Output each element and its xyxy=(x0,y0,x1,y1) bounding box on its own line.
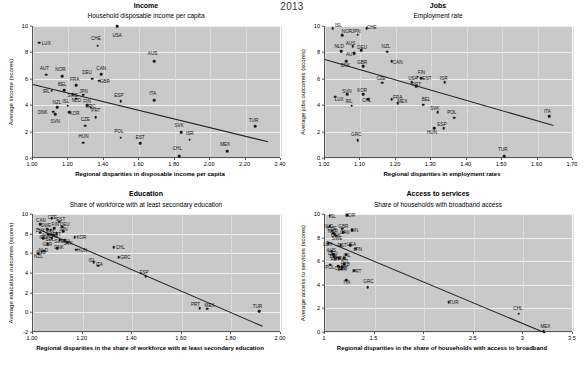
data-point xyxy=(56,106,59,109)
data-point-label: SVN xyxy=(342,88,351,93)
gridline-horizontal xyxy=(33,26,280,27)
gridline-horizontal xyxy=(325,214,572,215)
data-point xyxy=(422,103,425,106)
x-axis-tick-mark xyxy=(466,158,467,160)
x-axis-tick-label: 1.5 xyxy=(370,335,378,341)
gridline-horizontal xyxy=(33,312,280,313)
data-point-label: GBR xyxy=(42,242,52,247)
gridline-horizontal xyxy=(33,293,280,294)
x-axis-tick-label: 1.80 xyxy=(225,335,236,341)
data-point xyxy=(178,155,181,158)
chart-panel-income: IncomeHousehold disposable income per ca… xyxy=(0,0,292,188)
y-axis-tick-mark xyxy=(30,26,32,27)
data-point xyxy=(96,45,99,48)
data-point xyxy=(542,330,545,333)
data-point-label: ISL xyxy=(89,257,96,262)
data-point xyxy=(386,50,389,53)
x-axis-tick-label: 2 xyxy=(422,335,425,341)
data-point xyxy=(443,81,446,84)
y-axis-label: Average education outcomes (scores) xyxy=(8,214,14,332)
gridline-vertical xyxy=(396,26,397,157)
x-axis-tick-mark xyxy=(324,158,325,160)
data-point-label: TUR xyxy=(249,117,258,122)
gridline-vertical xyxy=(573,214,574,331)
data-point-label: PRT xyxy=(91,107,100,112)
chart-title: Access to services xyxy=(292,190,584,197)
x-axis-tick-label: 1.10 xyxy=(354,161,365,167)
data-point xyxy=(254,125,257,128)
y-axis-tick-mark xyxy=(322,26,324,27)
data-point-label: POL xyxy=(447,110,456,115)
x-axis-tick-label: 1.00 xyxy=(319,161,330,167)
data-point-label: SVK xyxy=(337,267,346,272)
data-point-label: NLD xyxy=(335,43,344,48)
data-point-label: CZE xyxy=(81,117,90,122)
data-point xyxy=(331,27,334,30)
chart-title: Income xyxy=(0,2,292,9)
data-point-label: CHE xyxy=(48,233,58,238)
data-point-label: CZE xyxy=(376,76,385,81)
data-point xyxy=(153,99,156,102)
y-axis-tick-label: 10 xyxy=(22,23,30,29)
x-axis-tick-label: 2.40 xyxy=(275,161,286,167)
data-point-label: FIN xyxy=(52,222,59,227)
x-axis-label: Regional disparities in the share of wor… xyxy=(14,344,286,352)
gridline-vertical xyxy=(210,26,211,157)
data-point xyxy=(503,155,506,158)
data-point xyxy=(258,310,261,313)
data-point-label: NLD xyxy=(72,97,81,102)
data-point-label: KOR xyxy=(357,88,367,93)
gridline-vertical xyxy=(375,214,376,331)
data-point-label: HUN xyxy=(79,134,89,139)
data-point-label: FIN xyxy=(418,69,425,74)
gridline-horizontal xyxy=(33,332,280,333)
data-point-label: CHL xyxy=(362,97,371,102)
data-point xyxy=(54,113,57,116)
data-point-label: KOR xyxy=(76,234,86,239)
data-point xyxy=(442,127,445,130)
y-axis-tick-mark xyxy=(30,78,32,79)
chart-panel-education: EducationShare of workforce with at leas… xyxy=(0,188,292,376)
x-axis-tick-mark xyxy=(473,332,474,334)
y-axis-tick-mark xyxy=(322,237,324,238)
gridline-vertical xyxy=(474,214,475,331)
data-point-label: BEL xyxy=(58,82,67,87)
data-point-label: SVK xyxy=(430,105,439,110)
y-axis-tick-mark xyxy=(322,78,324,79)
data-point-label: GRC xyxy=(120,255,130,260)
data-point-label: SVN xyxy=(50,119,59,124)
data-point-label: ITA xyxy=(96,261,103,266)
data-point-label: CAN xyxy=(340,230,350,235)
x-axis-tick-mark xyxy=(324,332,325,334)
data-point-label: TUR xyxy=(253,303,262,308)
y-axis-tick-mark xyxy=(30,273,32,274)
y-axis-tick-mark xyxy=(30,233,32,234)
data-point-label: PRT xyxy=(352,268,361,273)
data-point-label: JPN xyxy=(353,246,362,251)
trendline xyxy=(327,241,546,333)
gridline-vertical xyxy=(325,26,326,157)
x-axis-tick-label: 2.5 xyxy=(469,335,477,341)
data-point-label: JPN xyxy=(352,29,361,34)
x-axis-tick-label: 1.40 xyxy=(126,335,137,341)
data-point-label: NOR xyxy=(342,29,352,34)
x-axis-tick-label: 2.20 xyxy=(239,161,250,167)
x-axis-tick-mark xyxy=(103,158,104,160)
chart-title: Jobs xyxy=(292,2,584,9)
data-point-label: ISR xyxy=(440,76,448,81)
data-point xyxy=(367,286,370,289)
x-axis-tick-label: 3.5 xyxy=(568,335,576,341)
x-axis-tick-mark xyxy=(32,158,33,160)
gridline-horizontal xyxy=(325,132,572,133)
data-point-label: CHE xyxy=(367,24,377,29)
plot-area: CANCZEESTDEULUXJPNIRLBELNLDDNKSWEFINNORA… xyxy=(32,214,280,332)
y-axis-tick-mark xyxy=(30,131,32,132)
data-point-label: NZL xyxy=(53,99,62,104)
data-point xyxy=(95,116,98,119)
x-axis-tick-mark xyxy=(522,332,523,334)
chart-panel-jobs: JobsEmployment rateISLNORNLDDNKLUXAUSAUT… xyxy=(292,0,584,188)
x-axis-tick-label: 1.50 xyxy=(496,161,507,167)
y-axis-label: Average income (scores) xyxy=(8,26,14,158)
data-point-label: PRT xyxy=(412,82,421,87)
data-point xyxy=(188,138,191,141)
